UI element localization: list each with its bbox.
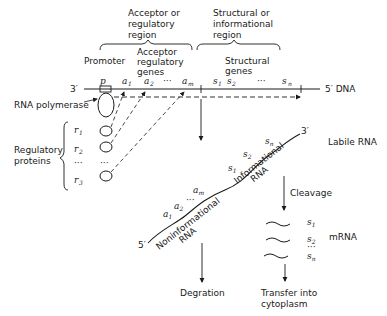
svg-text:2: 2	[78, 148, 83, 155]
svg-text:5′: 5′	[138, 240, 146, 250]
svg-text:sn: sn	[307, 251, 316, 262]
svg-text:···: ···	[163, 76, 172, 86]
svg-text:a: a	[144, 76, 149, 86]
svg-text:a1: a1	[163, 209, 172, 220]
dna-5prime: 5′ DNA	[325, 84, 356, 94]
degradation-label: Degration	[180, 288, 225, 298]
mrna-s2	[266, 238, 290, 242]
svg-text:s: s	[282, 76, 287, 86]
svg-text:1: 1	[79, 129, 83, 136]
svg-text:genes: genes	[225, 66, 252, 76]
svg-text:1: 1	[128, 80, 132, 87]
svg-text:a: a	[122, 76, 127, 86]
acceptor-region-label: Acceptor or	[128, 8, 180, 18]
svg-text:p: p	[100, 76, 106, 86]
svg-text:regulatory: regulatory	[128, 19, 175, 29]
svg-text:···: ···	[257, 76, 266, 86]
svg-text:regulatory: regulatory	[137, 57, 184, 67]
svg-text:3′: 3′	[301, 126, 309, 136]
mrna-sn	[264, 254, 288, 258]
noninformational-rna-label: Noninformational RNA	[154, 196, 227, 259]
structural-genes-label: Structural	[225, 56, 270, 66]
gene-regulation-diagram: Acceptor or regulatory region Structural…	[0, 0, 387, 316]
svg-text:region: region	[213, 30, 241, 40]
svg-text:2: 2	[149, 80, 154, 87]
mrna-label: mRNA	[329, 232, 358, 242]
svg-text:···: ···	[74, 158, 83, 168]
structural-brace	[197, 40, 280, 50]
svg-text:region: region	[128, 30, 156, 40]
svg-text:a2: a2	[174, 201, 183, 212]
svg-text:s1: s1	[228, 163, 236, 174]
protein-r3	[100, 171, 112, 181]
svg-text:s2: s2	[243, 149, 252, 160]
svg-text:···: ···	[186, 195, 195, 205]
protein-r2	[100, 142, 112, 152]
svg-text:n: n	[288, 80, 292, 87]
svg-text:3: 3	[79, 179, 83, 186]
svg-text:a: a	[182, 76, 187, 86]
svg-text:1: 1	[218, 80, 222, 87]
dna-3prime: 3′	[70, 84, 78, 94]
svg-text:s1: s1	[307, 217, 315, 228]
labile-rna-label: Labile RNA	[328, 137, 378, 147]
rna-polymerase-label: RNA polymerase	[14, 100, 89, 110]
svg-text:proteins: proteins	[14, 156, 51, 166]
proteins-brace	[60, 122, 68, 190]
svg-text:2: 2	[231, 80, 236, 87]
svg-text:···: ···	[100, 158, 109, 168]
cleavage-label: Cleavage	[290, 188, 332, 198]
rna-polymerase-shape	[98, 93, 114, 117]
structural-region-label: Structural or	[213, 8, 270, 18]
transfer-label: Transfer into	[260, 288, 318, 298]
promoter-label: Promoter	[84, 56, 126, 66]
informational-rna-label: Informational RNA	[232, 141, 291, 193]
mrna-s1	[266, 222, 290, 226]
svg-text:genes: genes	[137, 67, 164, 77]
svg-text:cytoplasm: cytoplasm	[261, 299, 308, 309]
svg-text:m: m	[188, 80, 194, 87]
regulatory-proteins-label: Regulatory	[14, 145, 64, 155]
svg-text:informational: informational	[213, 19, 273, 29]
svg-text:am: am	[193, 185, 204, 196]
acceptor-genes-label: Acceptor	[137, 47, 177, 57]
protein-r1	[100, 126, 112, 136]
